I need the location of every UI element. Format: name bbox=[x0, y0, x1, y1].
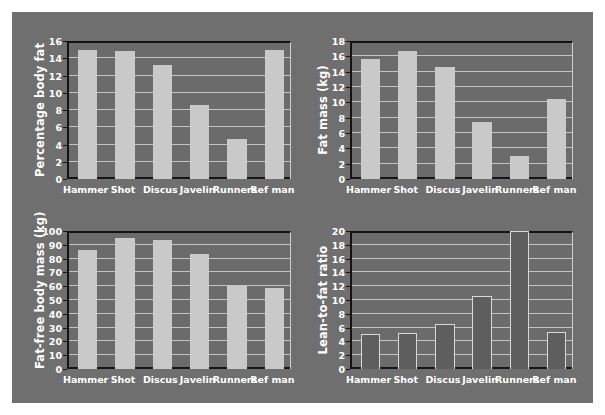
y-tick-label: 0 bbox=[338, 174, 345, 185]
y-tick-mark bbox=[63, 341, 67, 342]
x-tick-label: Shot bbox=[393, 374, 418, 385]
plot-area bbox=[67, 231, 291, 369]
bar bbox=[78, 50, 97, 179]
y-tick-mark bbox=[346, 300, 350, 301]
bar bbox=[265, 50, 284, 179]
y-tick-label: 8 bbox=[338, 112, 345, 123]
x-tick-label: Discus bbox=[143, 184, 178, 195]
bar bbox=[190, 105, 209, 179]
y-tick-mark bbox=[63, 179, 67, 180]
bar bbox=[398, 51, 417, 179]
y-tick-label: 2 bbox=[338, 350, 345, 361]
x-tick-label: Ref man bbox=[532, 184, 576, 195]
x-tick-label: Discus bbox=[143, 374, 178, 385]
y-tick-mark bbox=[346, 272, 350, 273]
plot-area bbox=[350, 231, 573, 369]
y-tick-label: 18 bbox=[332, 239, 345, 250]
y-tick-mark bbox=[63, 58, 67, 59]
y-tick-label: 14 bbox=[49, 53, 62, 64]
gridline bbox=[352, 117, 572, 118]
x-tick-label: Ref man bbox=[250, 184, 294, 195]
x-tick-label: Shot bbox=[111, 184, 136, 195]
x-tick-label: Hammer bbox=[63, 184, 108, 195]
y-tick-label: 2 bbox=[338, 158, 345, 169]
chart-fat-mass: Fat mass (kg)024681012141618HammerShotDi… bbox=[303, 20, 585, 210]
gridline bbox=[69, 327, 290, 328]
x-tick-label: Ref man bbox=[250, 374, 294, 385]
gridline bbox=[69, 340, 290, 341]
y-tick-label: 30 bbox=[49, 322, 62, 333]
bar bbox=[153, 240, 172, 369]
bar bbox=[227, 139, 246, 179]
bar bbox=[547, 332, 566, 369]
y-axis-title: Percentage body fat bbox=[33, 41, 47, 179]
y-tick-label: 8 bbox=[55, 105, 62, 116]
y-tick-mark bbox=[63, 145, 67, 146]
y-tick-label: 10 bbox=[49, 87, 62, 98]
chart-fat-free-body-mass: Fat-free body mass (kg)01020304050607080… bbox=[20, 210, 303, 400]
y-tick-label: 8 bbox=[338, 308, 345, 319]
y-tick-mark bbox=[63, 272, 67, 273]
x-axis-baseline bbox=[352, 367, 572, 369]
y-tick-label: 4 bbox=[338, 336, 345, 347]
bar bbox=[265, 288, 284, 369]
y-tick-mark bbox=[346, 314, 350, 315]
y-tick-mark bbox=[346, 118, 350, 119]
gridline bbox=[69, 258, 290, 259]
bar bbox=[78, 250, 97, 369]
gridline bbox=[352, 147, 572, 148]
x-axis-baseline bbox=[69, 367, 290, 369]
y-tick-label: 6 bbox=[338, 128, 345, 139]
y-tick-mark bbox=[63, 41, 67, 42]
y-tick-label: 100 bbox=[42, 226, 62, 237]
plot-area bbox=[67, 41, 291, 179]
y-tick-mark bbox=[346, 231, 350, 232]
bar bbox=[510, 231, 529, 369]
gridline bbox=[352, 71, 572, 72]
x-tick-label: Shot bbox=[393, 184, 418, 195]
y-tick-label: 6 bbox=[338, 322, 345, 333]
gridline bbox=[352, 271, 572, 272]
x-tick-label: Javelin bbox=[462, 374, 498, 385]
x-tick-label: Hammer bbox=[346, 374, 391, 385]
y-tick-mark bbox=[63, 355, 67, 356]
bar bbox=[510, 156, 529, 179]
chart-percentage-body-fat: Percentage body fat0246810121416HammerSh… bbox=[20, 20, 303, 210]
gridline bbox=[352, 132, 572, 133]
chart-lean-to-fat-ratio: Lean-to-fat ratio02468101214161820Hammer… bbox=[303, 210, 585, 400]
gridline bbox=[69, 161, 290, 162]
gridline bbox=[352, 285, 572, 286]
y-tick-mark bbox=[346, 328, 350, 329]
bar bbox=[115, 238, 134, 369]
y-tick-mark bbox=[63, 110, 67, 111]
y-tick-mark bbox=[63, 162, 67, 163]
y-tick-mark bbox=[346, 102, 350, 103]
gridline bbox=[352, 163, 572, 164]
gridline bbox=[352, 258, 572, 259]
y-tick-mark bbox=[346, 41, 350, 42]
y-tick-label: 14 bbox=[332, 267, 345, 278]
y-tick-label: 10 bbox=[332, 295, 345, 306]
bar bbox=[472, 296, 491, 369]
x-tick-label: Hammer bbox=[346, 184, 391, 195]
bar bbox=[547, 99, 566, 180]
y-tick-label: 40 bbox=[49, 308, 62, 319]
x-tick-label: Javelin bbox=[462, 184, 498, 195]
gridline bbox=[69, 244, 290, 245]
gridline bbox=[352, 101, 572, 102]
plot-area bbox=[350, 41, 573, 179]
gridline bbox=[352, 340, 572, 341]
gridline bbox=[352, 327, 572, 328]
bar bbox=[190, 254, 209, 369]
x-tick-label: Discus bbox=[425, 184, 460, 195]
y-tick-mark bbox=[346, 355, 350, 356]
y-tick-mark bbox=[346, 164, 350, 165]
y-axis-title: Fat-free body mass (kg) bbox=[33, 231, 47, 369]
y-tick-label: 70 bbox=[49, 267, 62, 278]
y-tick-label: 0 bbox=[338, 364, 345, 375]
y-tick-label: 16 bbox=[332, 51, 345, 62]
y-tick-label: 50 bbox=[49, 295, 62, 306]
gridline bbox=[69, 313, 290, 314]
y-tick-label: 12 bbox=[332, 281, 345, 292]
y-tick-label: 2 bbox=[55, 156, 62, 167]
